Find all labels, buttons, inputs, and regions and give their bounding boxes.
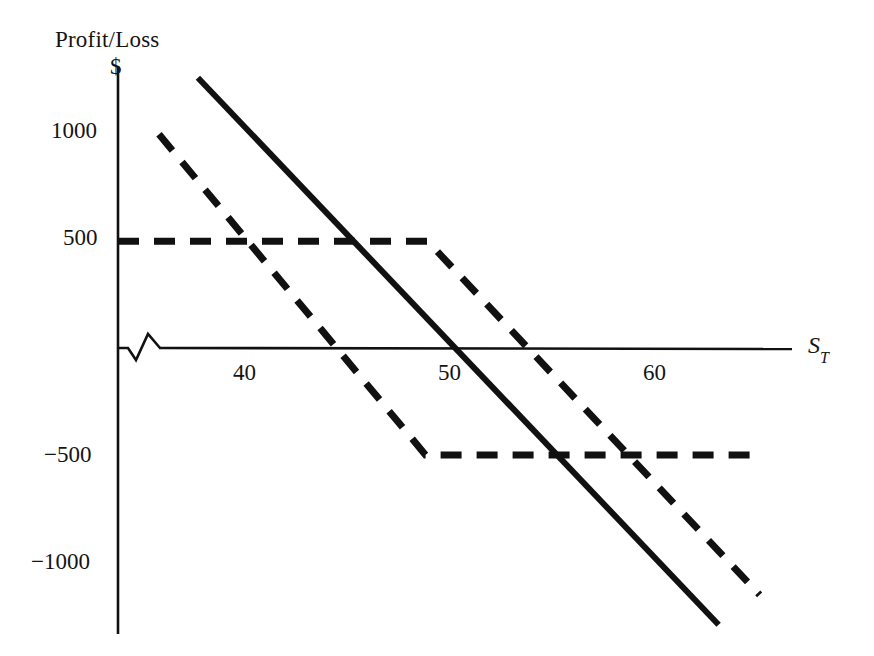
y-axis-title: Profit/Loss — [55, 28, 159, 51]
x-axis-title-subscript: T — [820, 349, 829, 366]
y-tick-label-neg1000: −1000 — [31, 550, 90, 573]
x-tick-label-60: 60 — [643, 361, 666, 384]
x-axis-line — [159, 348, 792, 349]
y-tick-label-500: 500 — [63, 226, 98, 249]
x-axis-title: ST — [808, 333, 829, 362]
x-axis-title-base: S — [808, 332, 820, 358]
series-dashed-kink-down — [159, 134, 760, 455]
x-tick-label-40: 40 — [233, 361, 256, 384]
series-solid — [198, 78, 719, 625]
y-tick-label-neg500: −500 — [44, 443, 91, 466]
profit-loss-chart: Profit/Loss $ 1000 500 −500 −1000 40 50 … — [0, 0, 874, 656]
x-axis-break-zigzag — [118, 334, 160, 360]
series-dashed-kink-up — [118, 241, 760, 595]
y-tick-label-1000: 1000 — [51, 119, 97, 142]
y-axis-unit-label: $ — [110, 55, 122, 78]
x-tick-label-50: 50 — [438, 361, 461, 384]
chart-canvas — [0, 0, 874, 656]
